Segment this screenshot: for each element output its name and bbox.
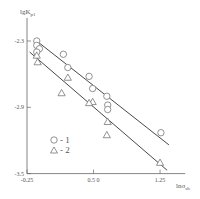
circle-marker-icon	[65, 64, 71, 70]
x-tick-label: -0.25	[21, 177, 34, 183]
circle-marker-icon	[158, 130, 164, 136]
triangle-marker-icon	[64, 74, 71, 80]
circle-marker-icon	[105, 106, 111, 112]
circle-marker-icon	[104, 93, 110, 99]
circle-marker-icon	[51, 137, 57, 143]
data-markers	[33, 38, 164, 166]
triangle-marker-icon	[51, 147, 58, 153]
fit-line-2	[30, 52, 167, 170]
y-axis-label: lgKp1	[20, 8, 36, 17]
y-tick-label: -2.3	[15, 38, 25, 44]
legend-item-2: - 2	[51, 145, 70, 155]
circle-marker-icon	[86, 73, 92, 79]
legend-label-2: - 2	[60, 145, 70, 155]
y-tick-label: -2.9	[15, 104, 25, 110]
x-tick-label: 0.5 0	[88, 177, 100, 183]
x-axis-label: lnσsh	[176, 182, 190, 191]
circle-marker-icon	[60, 51, 66, 57]
circle-marker-icon	[89, 85, 95, 91]
axes: -2.3-2.9-3.5-0.250.5 01.25	[15, 18, 186, 183]
legend: - 1 - 2	[51, 135, 70, 155]
triangle-marker-icon	[58, 89, 65, 95]
triangle-marker-icon	[103, 131, 110, 137]
legend-item-1: - 1	[51, 135, 70, 145]
legend-label-1: - 1	[60, 135, 70, 145]
fit-line-1	[37, 41, 169, 145]
fit-lines	[30, 41, 169, 170]
chart: -2.3-2.9-3.5-0.250.5 01.25 lgKp1 lnσsh -…	[0, 0, 200, 199]
x-tick-label: 1.25	[155, 177, 166, 183]
